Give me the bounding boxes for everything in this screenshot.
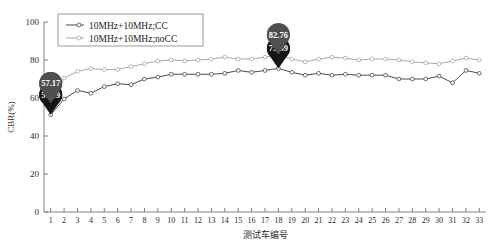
data-point-nocc	[196, 58, 200, 62]
y-tick-label: 80	[30, 55, 40, 65]
data-point-cc	[210, 72, 214, 76]
x-tick-label: 20	[301, 216, 309, 225]
data-point-nocc	[437, 62, 441, 66]
x-tick-label: 32	[462, 216, 470, 225]
x-tick-label: 15	[234, 216, 242, 225]
ann-82-76-label: 82.76	[269, 30, 288, 40]
y-tick-label: 0	[35, 207, 40, 217]
legend-label-0: 10MHz+10MHz;CC	[89, 21, 168, 31]
x-tick-label: 1	[49, 216, 53, 225]
data-point-cc	[62, 97, 66, 101]
data-point-cc	[223, 71, 227, 75]
x-tick-label: 13	[207, 216, 215, 225]
data-point-nocc	[236, 57, 240, 61]
x-tick-label: 22	[328, 216, 336, 225]
y-axis-title: CBR(%)	[6, 101, 16, 133]
data-point-cc	[370, 73, 374, 77]
x-tick-label: 9	[156, 216, 160, 225]
y-tick-label: 40	[30, 131, 40, 141]
data-point-nocc	[290, 57, 294, 61]
data-point-cc	[303, 73, 307, 77]
legend-marker-0	[77, 23, 81, 27]
data-point-cc	[102, 85, 106, 89]
x-tick-label: 21	[315, 216, 323, 225]
data-point-cc	[397, 77, 401, 81]
data-point-nocc	[169, 58, 173, 62]
x-tick-label: 31	[449, 216, 457, 225]
x-tick-label: 7	[129, 216, 133, 225]
data-point-cc	[464, 69, 468, 73]
series-line-cc	[51, 68, 480, 114]
y-tick-label: 60	[30, 93, 40, 103]
data-point-cc	[250, 70, 254, 74]
data-point-cc	[290, 70, 294, 74]
data-point-nocc	[317, 57, 321, 61]
data-point-nocc	[357, 58, 361, 62]
data-point-nocc	[102, 68, 106, 72]
data-point-cc	[424, 77, 428, 81]
data-point-cc	[317, 71, 321, 75]
x-tick-label: 16	[248, 216, 256, 225]
x-tick-label: 17	[261, 216, 269, 225]
x-tick-label: 33	[475, 216, 483, 225]
y-tick-label: 20	[30, 169, 40, 179]
data-point-nocc	[451, 59, 455, 63]
data-point-cc	[410, 77, 414, 81]
data-point-cc	[357, 73, 361, 77]
data-point-nocc	[477, 58, 481, 62]
data-point-nocc	[89, 67, 93, 71]
legend-label-1: 10MHz+10MHz;noCC	[89, 34, 177, 44]
x-tick-label: 19	[288, 216, 296, 225]
x-tick-label: 11	[181, 216, 189, 225]
data-point-nocc	[330, 55, 334, 59]
data-point-nocc	[370, 57, 374, 61]
data-point-cc	[129, 83, 133, 87]
data-point-cc	[89, 91, 93, 95]
x-tick-label: 28	[408, 216, 416, 225]
data-point-cc	[330, 73, 334, 77]
data-point-nocc	[410, 60, 414, 64]
data-point-nocc	[129, 65, 133, 69]
data-point-cc	[143, 77, 147, 81]
data-point-cc	[76, 89, 80, 93]
x-tick-label: 12	[194, 216, 202, 225]
y-tick-label: 100	[26, 17, 40, 27]
x-tick-label: 3	[75, 216, 79, 225]
x-tick-label: 30	[435, 216, 443, 225]
data-point-cc	[169, 72, 173, 76]
data-point-nocc	[250, 57, 254, 61]
x-tick-label: 24	[355, 216, 363, 225]
data-point-nocc	[384, 57, 388, 61]
data-point-cc	[116, 82, 120, 86]
data-point-nocc	[303, 60, 307, 64]
data-point-nocc	[143, 62, 147, 66]
data-point-nocc	[223, 55, 227, 59]
x-tick-label: 23	[341, 216, 349, 225]
data-point-cc	[196, 72, 200, 76]
x-tick-label: 6	[116, 216, 120, 225]
cbr-line-chart: 0204060801001234567891011121314151617181…	[0, 0, 491, 250]
x-tick-label: 8	[142, 216, 146, 225]
data-point-cc	[451, 81, 455, 85]
x-tick-label: 5	[102, 216, 106, 225]
x-tick-label: 2	[62, 216, 66, 225]
x-tick-label: 26	[382, 216, 390, 225]
chart-canvas: 0204060801001234567891011121314151617181…	[0, 0, 491, 250]
data-point-nocc	[210, 57, 214, 61]
data-point-cc	[437, 74, 441, 78]
data-point-nocc	[343, 56, 347, 60]
data-point-cc	[343, 72, 347, 76]
x-tick-label: 18	[274, 216, 282, 225]
data-point-nocc	[62, 76, 66, 80]
legend-marker-1	[77, 36, 81, 40]
x-axis-title: 测试车编号	[243, 229, 288, 240]
data-point-nocc	[397, 58, 401, 62]
data-point-nocc	[464, 56, 468, 60]
data-point-cc	[477, 71, 481, 75]
data-point-cc	[384, 73, 388, 77]
data-point-nocc	[183, 59, 187, 63]
data-point-nocc	[76, 70, 80, 74]
data-point-nocc	[116, 68, 120, 72]
ann-57-17-label: 57.17	[41, 78, 61, 88]
x-tick-label: 27	[395, 216, 403, 225]
